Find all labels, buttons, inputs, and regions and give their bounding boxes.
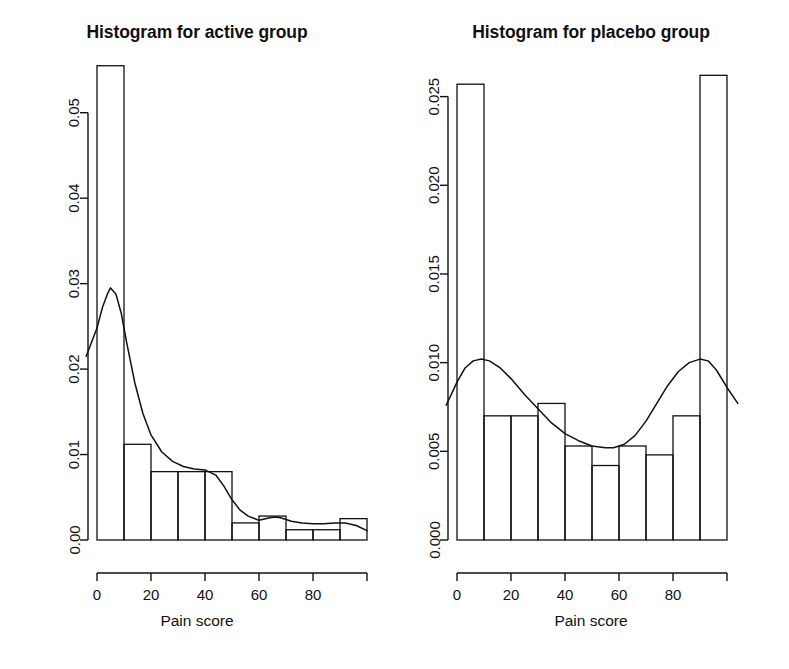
histogram-bar [97, 66, 124, 540]
x-axis-tick-label: 20 [503, 586, 520, 603]
x-axis-tick-label: 60 [611, 586, 628, 603]
y-axis-tick-label: 0.00 [66, 525, 83, 554]
histogram-bar [178, 472, 205, 540]
histogram-bar [592, 466, 619, 540]
histogram-bar [619, 446, 646, 540]
x-axis-tick-label: 40 [197, 586, 214, 603]
histogram-bar [538, 403, 565, 540]
x-axis-tick-label: 20 [143, 586, 160, 603]
x-axis-tick-label: 80 [305, 586, 322, 603]
y-axis-tick-label: 0.005 [426, 433, 443, 471]
y-axis-tick-label: 0.010 [426, 344, 443, 382]
histogram-bar [700, 75, 727, 540]
histogram-bar [151, 472, 178, 540]
figure-canvas: Histogram for active group 0.000.010.020… [0, 0, 789, 669]
x-axis-label-active: Pain score [0, 612, 394, 630]
x-axis-tick-label: 0 [93, 586, 101, 603]
y-axis-tick-label: 0.03 [66, 269, 83, 298]
y-axis-tick-label: 0.02 [66, 354, 83, 383]
x-axis-tick-label: 60 [251, 586, 268, 603]
density-curve [446, 359, 738, 448]
plot-area-placebo: 0.0000.0050.0100.0150.0200.025020406080 [394, 0, 788, 669]
histogram-bar [646, 455, 673, 540]
histogram-bar [313, 530, 340, 540]
y-axis-tick-label: 0.05 [66, 98, 83, 127]
y-axis-tick-label: 0.01 [66, 440, 83, 469]
histogram-bar [124, 444, 151, 540]
panel-active-group: Histogram for active group 0.000.010.020… [0, 0, 394, 669]
y-axis-tick-label: 0.015 [426, 255, 443, 293]
density-curve [86, 288, 367, 531]
x-axis-tick-label: 40 [557, 586, 574, 603]
plot-content: 0.000.010.020.030.040.05020406080 [66, 66, 368, 603]
histogram-bar [286, 530, 313, 540]
y-axis-tick-label: 0.000 [426, 521, 443, 559]
histogram-bar [565, 446, 592, 540]
histogram-bar [205, 472, 232, 540]
histogram-bar [232, 523, 259, 540]
plot-content: 0.0000.0050.0100.0150.0200.025020406080 [426, 75, 738, 603]
histogram-bar [484, 416, 511, 540]
y-axis-tick-label: 0.020 [426, 167, 443, 205]
y-axis-tick-label: 0.04 [66, 184, 83, 213]
histogram-bar [457, 84, 484, 540]
y-axis-tick-label: 0.025 [426, 78, 443, 116]
x-axis-tick-label: 0 [453, 586, 461, 603]
panel-placebo-group: Histogram for placebo group 0.0000.0050.… [394, 0, 788, 669]
x-axis-tick-label: 80 [665, 586, 682, 603]
x-axis-label-placebo: Pain score [394, 612, 788, 630]
histogram-bar [673, 416, 700, 540]
plot-area-active: 0.000.010.020.030.040.05020406080 [0, 0, 394, 669]
histogram-bar [511, 416, 538, 540]
